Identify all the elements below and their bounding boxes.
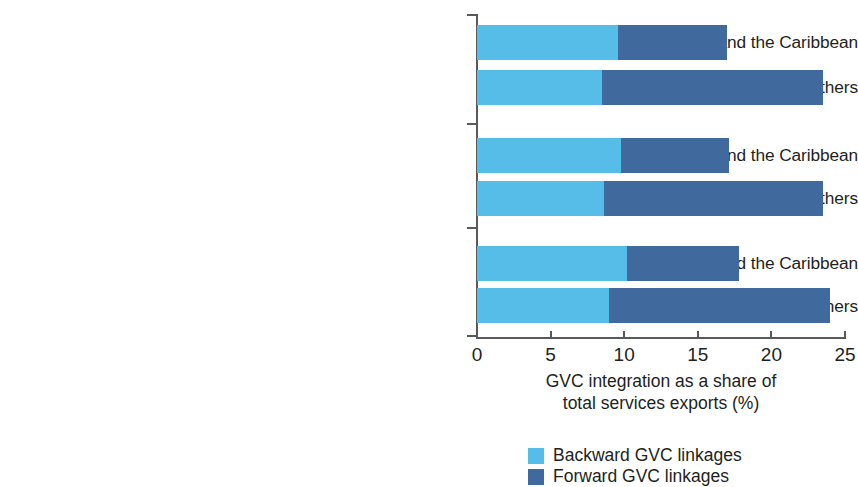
- bar-segment-forward: [618, 25, 727, 60]
- x-axis-tick-label: 10: [614, 345, 635, 364]
- legend-swatch-backward-icon: [528, 448, 544, 464]
- x-axis-title: GVC integration as a share of total serv…: [477, 370, 845, 415]
- x-axis-tick-label: 20: [761, 345, 782, 364]
- x-axis-tick: [623, 331, 625, 339]
- x-axis: [477, 337, 845, 339]
- bar-segment-backward: [477, 138, 621, 173]
- bar-row: [477, 70, 823, 105]
- y-axis-tick-top: [467, 14, 478, 16]
- plot-area: [477, 14, 845, 337]
- bar-segment-forward: [627, 246, 739, 281]
- x-axis-tick-label: 15: [687, 345, 708, 364]
- x-axis-tick-label: 5: [545, 345, 556, 364]
- legend-label-backward: Backward GVC linkages: [553, 447, 742, 465]
- stacked-bar-chart-figure: Observed, Latin America and the Caribbea…: [0, 0, 858, 487]
- legend-item-backward: Backward GVC linkages: [528, 445, 742, 466]
- x-axis-tick: [770, 331, 772, 339]
- x-axis-tick: [697, 331, 699, 339]
- bar-segment-forward: [609, 288, 830, 323]
- bar-segment-backward: [477, 288, 609, 323]
- legend-item-forward: Forward GVC linkages: [528, 466, 742, 487]
- bar-row: [477, 288, 830, 323]
- bar-segment-backward: [477, 25, 618, 60]
- bar-row: [477, 25, 727, 60]
- x-axis-tick-label: 25: [834, 345, 855, 364]
- x-axis-title-line2: total services exports (%): [477, 392, 845, 414]
- x-axis-tick: [550, 331, 552, 339]
- x-axis-tick: [844, 331, 846, 339]
- legend: Backward GVC linkages Forward GVC linkag…: [528, 445, 742, 487]
- legend-swatch-forward-icon: [528, 469, 544, 485]
- bar-segment-forward: [602, 70, 823, 105]
- y-axis-tick-scenario1-scenario2: [467, 227, 478, 229]
- bar-row: [477, 181, 823, 216]
- x-axis-tick: [476, 331, 478, 339]
- bar-segment-backward: [477, 70, 602, 105]
- x-axis-tick-label: 0: [472, 345, 483, 364]
- y-axis-tick-observed-scenario1: [467, 123, 478, 125]
- bar-segment-forward: [621, 138, 728, 173]
- bar-segment-backward: [477, 246, 627, 281]
- bar-segment-forward: [604, 181, 823, 216]
- bar-row: [477, 246, 739, 281]
- legend-label-forward: Forward GVC linkages: [553, 468, 729, 486]
- x-axis-title-line1: GVC integration as a share of: [477, 370, 845, 392]
- bar-segment-backward: [477, 181, 604, 216]
- bar-row: [477, 138, 729, 173]
